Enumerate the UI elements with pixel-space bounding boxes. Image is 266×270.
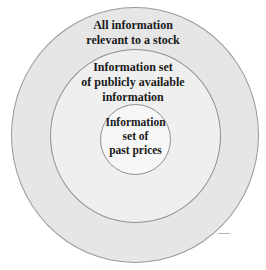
information-sets-diagram: All information relevant to a stock Info… <box>0 0 266 270</box>
outer-label-line-1: All information <box>83 18 183 33</box>
outer-label-line-2: relevant to a stock <box>83 33 183 48</box>
outer-circle-label: All information relevant to a stock <box>83 18 183 48</box>
middle-label-line-3: information <box>73 90 193 105</box>
inner-label-line-3: past prices <box>100 143 171 157</box>
middle-label-line-1: Information set <box>73 60 193 75</box>
inner-label-line-2: set of <box>100 129 171 143</box>
leader-line-stub <box>218 233 230 234</box>
middle-circle-label: Information set of publicly available in… <box>73 60 193 105</box>
inner-label-line-1: Information <box>100 115 171 129</box>
middle-label-line-2: of publicly available <box>73 75 193 90</box>
inner-circle-label: Information set of past prices <box>100 115 171 157</box>
